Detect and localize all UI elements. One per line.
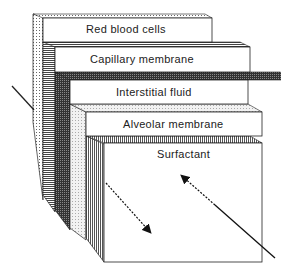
layer-side-capillary-membrane [43,42,55,212]
layer-side-alveolar-membrane [70,104,86,240]
label-capillary-membrane: Capillary membrane [90,53,194,65]
layer-side-surfactant [86,136,104,262]
incoming-left-arrow [12,86,34,110]
label-surfactant: Surfactant [157,148,210,160]
layer-side-interstitial-fluid [55,72,70,230]
respiratory-membrane-diagram [0,0,281,270]
label-interstitial-fluid: Interstitial fluid [116,86,192,98]
layer-side-red-blood-cells [33,14,43,200]
layer-face-surfactant [104,143,262,262]
label-alveolar-membrane: Alveolar membrane [123,118,223,130]
label-red-blood-cells: Red blood cells [86,23,166,35]
